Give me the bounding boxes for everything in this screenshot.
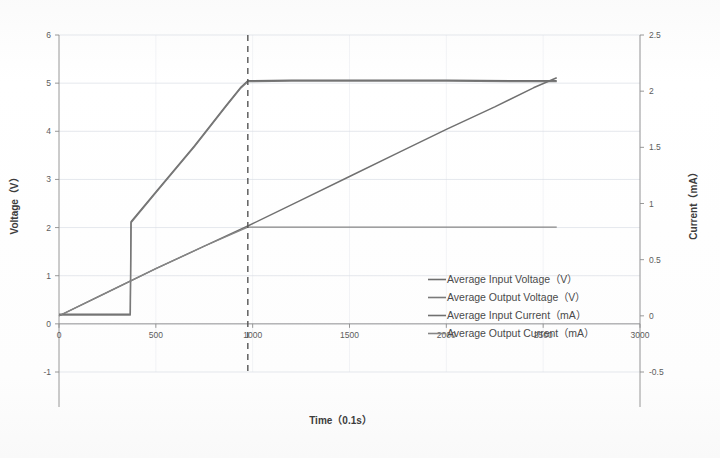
chart-canvas: 050010001500200025003000 -10123456 -0.50… [0,0,720,458]
secondary-y-axis-tick-label: 2 [649,86,654,96]
y-axis-tick-label: 1 [46,271,51,281]
x-axis-title: Time（0.1s） [309,414,372,426]
y-axis-tick-label: 2 [46,223,51,233]
chart-legend: Average Input Voltage（V）Average Output V… [428,273,594,339]
secondary-y-axis-tick-label: 2.5 [649,30,661,40]
secondary-y-axis-tick-labels: -0.500.511.522.5 [649,30,664,377]
y-axis-tick-label: 5 [46,78,51,88]
secondary-y-axis-tick-label: 0.5 [649,255,661,265]
legend-label-2: Average Output Voltage（V） [447,291,585,303]
legend-label-4: Average Output Current（mA） [447,327,594,339]
x-axis-tick-label: 0 [57,330,62,340]
y-axis-tick-label: -1 [43,367,51,377]
y-axis-tick-label: 6 [46,30,51,40]
y-axis-title: Voltage（V） [8,172,20,234]
x-axis-tick-label: 1000 [243,330,262,340]
legend-item-2[interactable]: Average Output Voltage（V） [428,291,585,303]
y-axis-tick-label: 4 [46,126,51,136]
legend-label-3: Average Input Current（mA） [447,309,586,321]
x-axis-tick-label: 3000 [631,330,650,340]
legend-item-3[interactable]: Average Input Current（mA） [428,309,586,321]
legend-item-1[interactable]: Average Input Voltage（V） [428,273,577,285]
chart-figure: 050010001500200025003000 -10123456 -0.50… [0,0,720,458]
y-axis-tick-label: 0 [46,319,51,329]
legend-item-4[interactable]: Average Output Current（mA） [428,327,594,339]
x-axis-tick-label: 500 [149,330,163,340]
legend-label-1: Average Input Voltage（V） [447,273,577,285]
secondary-y-axis-tick-label: -0.5 [649,367,664,377]
secondary-y-axis-title: Current（mA） [687,167,699,239]
secondary-y-axis-tick-label: 1.5 [649,142,661,152]
secondary-y-axis-tick-label: 0 [649,311,654,321]
y-axis-tick-labels: -10123456 [43,30,51,377]
y-axis-tick-label: 3 [46,174,51,184]
x-axis-tick-label: 1500 [340,330,359,340]
secondary-y-axis-tick-label: 1 [649,199,654,209]
